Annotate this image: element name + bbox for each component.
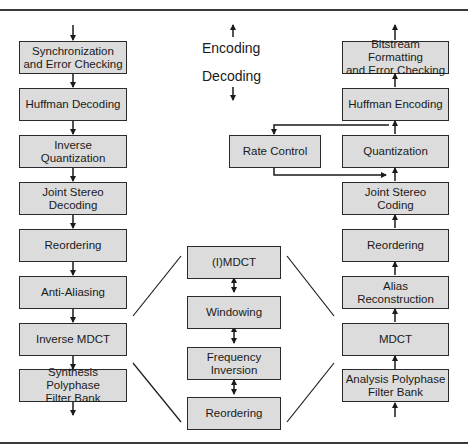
detail-block-reordering: Reordering [187, 397, 281, 430]
block-label: Synchronization and Error Checking [23, 45, 122, 71]
encoder-block-reordering: Reordering [342, 229, 449, 262]
decoder-block-huffman: Huffman Decoding [19, 88, 127, 121]
encoder-block-bitstream-formatting: Bitstream Formatting and Error Checking [342, 41, 449, 74]
block-label: Reordering [45, 239, 102, 252]
block-label: Joint Stereo Coding [365, 186, 426, 212]
detail-block-windowing: Windowing [187, 296, 281, 329]
block-label: Anti-Aliasing [41, 286, 105, 299]
block-label: Bitstream Formatting and Error Checking [345, 38, 446, 77]
decoder-block-reordering: Reordering [19, 229, 127, 262]
block-label: Joint Stereo Decoding [42, 186, 103, 212]
block-label: Rate Control [243, 145, 308, 158]
block-label: Huffman Decoding [25, 98, 120, 111]
encoder-block-mdct: MDCT [342, 323, 449, 356]
block-label: Reordering [206, 407, 263, 420]
decoder-block-inverse-quantization: Inverse Quantization [19, 135, 127, 168]
decoder-block-sync-error: Synchronization and Error Checking [19, 41, 127, 74]
block-label: Frequency Inversion [207, 351, 261, 377]
block-label: Inverse Quantization [41, 139, 106, 165]
block-label: (I)MDCT [212, 256, 256, 269]
decoder-block-synthesis-filterbank: Synthesis Polyphase Filter Bank [19, 369, 127, 402]
decoding-legend-label: Decoding [202, 68, 261, 84]
block-label: MDCT [379, 333, 412, 346]
block-label: Windowing [206, 306, 262, 319]
block-label: Reordering [367, 239, 424, 252]
decoder-block-joint-stereo: Joint Stereo Decoding [19, 182, 127, 215]
block-label: Quantization [363, 145, 428, 158]
block-label: Inverse MDCT [36, 333, 110, 346]
block-label: Alias Reconstruction [357, 280, 434, 306]
block-label: Synthesis Polyphase Filter Bank [22, 366, 124, 405]
encoding-legend-label: Encoding [202, 40, 260, 56]
block-label: Huffman Encoding [348, 98, 442, 111]
block-label: Analysis Polyphase Filter Bank [346, 373, 446, 399]
decoder-block-anti-aliasing: Anti-Aliasing [19, 276, 127, 309]
encoder-block-huffman: Huffman Encoding [342, 88, 449, 121]
encoder-block-alias-reconstruction: Alias Reconstruction [342, 276, 449, 309]
detail-block-imdct: (I)MDCT [187, 246, 281, 279]
detail-block-frequency-inversion: Frequency Inversion [187, 347, 281, 380]
rate-control-block: Rate Control [229, 135, 321, 168]
encoder-block-quantization: Quantization [342, 135, 449, 168]
decoder-block-inverse-mdct: Inverse MDCT [19, 323, 127, 356]
encoder-block-joint-stereo: Joint Stereo Coding [342, 182, 449, 215]
encoder-block-analysis-filterbank: Analysis Polyphase Filter Bank [342, 369, 449, 402]
